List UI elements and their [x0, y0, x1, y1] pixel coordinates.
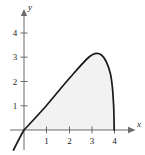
x-tick-label-3: 3: [90, 136, 95, 146]
y-tick-label-3: 3: [13, 52, 18, 62]
x-axis-arrowhead: [128, 127, 136, 133]
y-axis-label: y: [27, 2, 32, 12]
y-tick-label-2: 2: [13, 77, 18, 87]
x-tick-label-1: 1: [44, 136, 49, 146]
graph-figure: 1 2 3 4 1 2 3 4 x y: [0, 0, 145, 155]
shaded-area-under-curve: [24, 53, 115, 130]
y-axis-arrowhead: [21, 9, 27, 16]
y-tick-label-4: 4: [13, 28, 18, 38]
x-axis-label: x: [136, 119, 141, 129]
x-tick-label-2: 2: [67, 136, 72, 146]
plot-svg: 1 2 3 4 1 2 3 4 x y: [0, 0, 145, 155]
x-tick-label-4: 4: [112, 136, 117, 146]
y-tick-label-1: 1: [13, 101, 18, 111]
